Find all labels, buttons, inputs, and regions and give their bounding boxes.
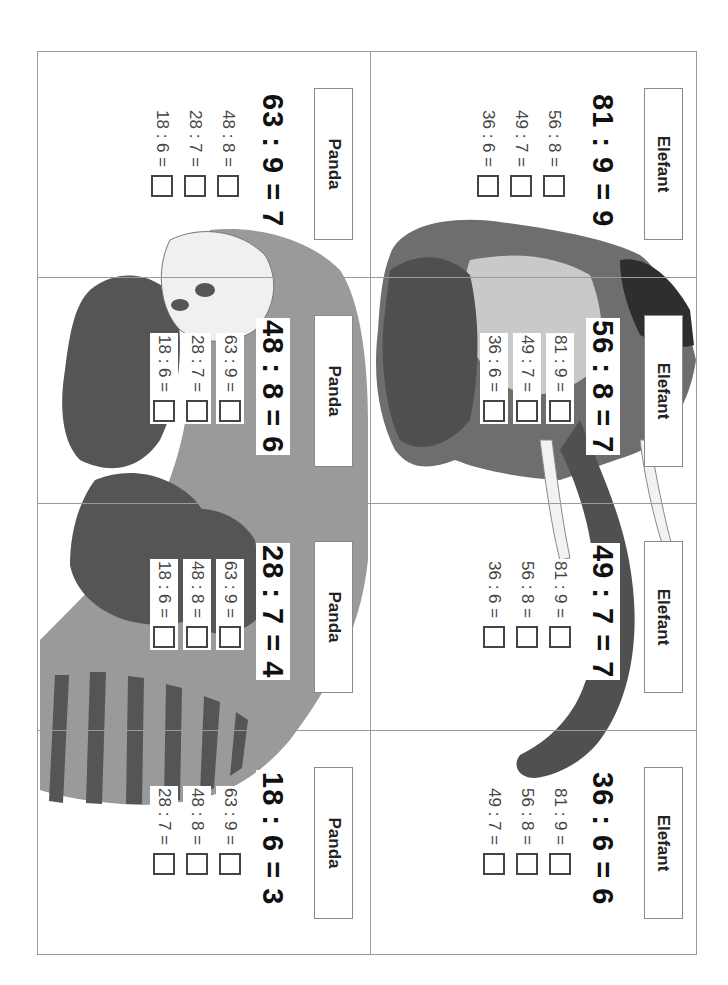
exercise-row: 63 : 9 = [216,333,244,424]
answer-box[interactable] [549,626,571,648]
exercise-row: 18 : 6 = [150,333,178,424]
exercise-row: 49 : 7 = [480,786,508,877]
row-divider-3 [37,730,697,731]
answer-box[interactable] [477,175,499,197]
exercise-row: 56 : 8 = [540,108,568,199]
exercise-row: 48 : 8 = [214,108,242,199]
answer-box[interactable] [516,400,538,422]
answer-box[interactable] [549,400,571,422]
exercise-row: 48 : 8 = [183,786,211,877]
exercise-row: 81 : 9 = [546,333,574,424]
answer-box[interactable] [219,853,241,875]
animal-label: Elefant [644,767,683,919]
answer-box[interactable] [184,175,206,197]
answer-box[interactable] [186,626,208,648]
exercise-row: 56 : 8 = [513,559,541,650]
exercise-row: 36 : 6 = [480,559,508,650]
animal-label: Elefant [644,315,683,467]
exercise-row: 81 : 9 = [546,559,574,650]
main-equation: 81 : 9 = 9 [586,92,620,229]
animal-label: Panda [314,767,353,919]
answer-box[interactable] [186,853,208,875]
exercise-row: 28 : 7 = [181,108,209,199]
answer-box[interactable] [153,626,175,648]
exercise-row: 63 : 9 = [216,559,244,650]
main-equation: 36 : 6 = 6 [586,770,620,907]
answer-box[interactable] [219,626,241,648]
exercise-row: 49 : 7 = [513,333,541,424]
answer-box[interactable] [483,853,505,875]
answer-box[interactable] [483,400,505,422]
exercise-row: 56 : 8 = [513,786,541,877]
exercise-row: 49 : 7 = [507,108,535,199]
animal-label: Elefant [644,541,683,693]
exercise-row: 48 : 8 = [183,559,211,650]
answer-box[interactable] [516,853,538,875]
animal-label: Elefant [644,88,683,240]
main-equation: 28 : 7 = 4 [256,543,290,680]
exercise-row: 36 : 6 = [480,333,508,424]
main-equation: 48 : 8 = 6 [256,318,290,455]
answer-box[interactable] [186,400,208,422]
row-divider-2 [37,503,697,504]
exercise-row: 36 : 6 = [474,108,502,199]
answer-box[interactable] [483,626,505,648]
main-equation: 63 : 9 = 7 [256,92,290,229]
main-equation: 49 : 7 = 7 [586,543,620,680]
main-equation: 18 : 6 = 3 [256,770,290,907]
answer-box[interactable] [153,400,175,422]
animal-label: Panda [314,88,353,240]
animal-label: Panda [314,315,353,467]
exercise-row: 28 : 7 = [150,786,178,877]
exercise-row: 18 : 6 = [150,559,178,650]
row-divider-1 [37,277,697,278]
answer-box[interactable] [153,853,175,875]
answer-box[interactable] [217,175,239,197]
exercise-row: 28 : 7 = [183,333,211,424]
exercise-row: 63 : 9 = [216,786,244,877]
exercise-row: 81 : 9 = [546,786,574,877]
answer-box[interactable] [510,175,532,197]
exercise-row: 18 : 6 = [148,108,176,199]
animal-label: Panda [314,541,353,693]
answer-box[interactable] [543,175,565,197]
answer-box[interactable] [151,175,173,197]
answer-box[interactable] [516,626,538,648]
answer-box[interactable] [219,400,241,422]
main-equation: 56 : 8 = 7 [586,318,620,455]
answer-box[interactable] [549,853,571,875]
